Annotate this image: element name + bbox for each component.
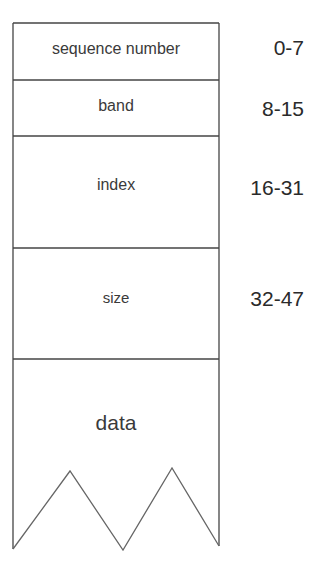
field-size: size [13, 289, 219, 306]
bits-index: 16-31 [226, 176, 304, 200]
bits-sequence-number: 0-7 [226, 36, 304, 60]
field-sequence-number: sequence number [13, 40, 219, 58]
field-data: data [13, 411, 219, 435]
bits-band: 8-15 [226, 97, 304, 121]
field-band: band [13, 97, 219, 115]
field-index: index [13, 176, 219, 194]
bits-size: 32-47 [226, 287, 304, 311]
